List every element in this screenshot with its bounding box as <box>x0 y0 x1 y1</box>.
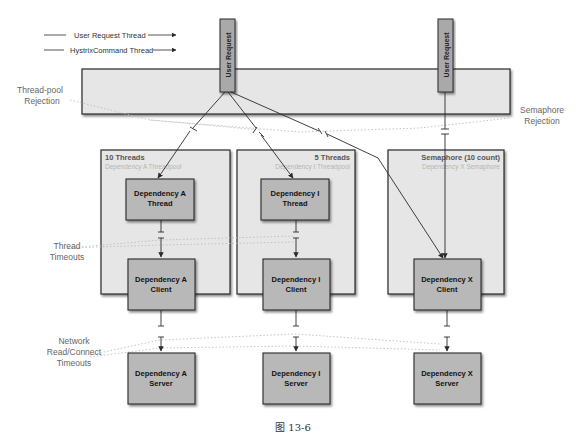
svg-text:Thread: Thread <box>54 241 81 251</box>
network-timeouts-label: Network Read/Connect Timeouts <box>47 336 102 368</box>
dependency-i-thread-box: Dependency I Thread <box>261 179 329 220</box>
svg-text:Semaphore: Semaphore <box>520 105 564 115</box>
dependency-i-client-box: Dependency I Client <box>263 259 330 310</box>
svg-text:Dependency A: Dependency A <box>135 369 187 378</box>
thread-pool-rejection-label: Thread-pool Rejection <box>17 85 63 106</box>
dependency-a-client-box: Dependency A Client <box>128 259 195 310</box>
hystrix-isolation-diagram: User Request Thread HystrixCommand Threa… <box>0 0 585 447</box>
svg-text:Dependency I: Dependency I <box>272 369 321 378</box>
thread-timeouts-label: Thread Timeouts <box>50 241 85 262</box>
legend-label: HystrixCommand Thread <box>70 46 153 55</box>
svg-text:Dependency A: Dependency A <box>135 275 187 284</box>
group-subtitle-x: Dependency X Semaphore <box>422 163 500 171</box>
svg-text:Thread: Thread <box>282 199 307 208</box>
group-subtitle-a: Dependency A Threadpool <box>105 163 182 171</box>
svg-text:Server: Server <box>435 379 458 388</box>
svg-text:Dependency I: Dependency I <box>272 275 321 284</box>
legend-hystrixcommand-thread: HystrixCommand Thread <box>44 46 176 55</box>
group-title-a: 10 Threads <box>105 153 145 162</box>
svg-text:Server: Server <box>149 379 172 388</box>
dependency-a-server-box: Dependency A Server <box>128 353 195 404</box>
svg-text:Rejection: Rejection <box>524 116 560 126</box>
svg-text:Client: Client <box>151 285 172 294</box>
svg-text:Client: Client <box>437 285 458 294</box>
svg-text:Client: Client <box>286 285 307 294</box>
legend: User Request Thread HystrixCommand Threa… <box>44 31 176 55</box>
figure-caption: 图 13-6 <box>275 422 311 433</box>
user-request-pillar-2: User Request <box>438 19 453 92</box>
svg-text:Network: Network <box>58 336 90 346</box>
svg-text:Timeouts: Timeouts <box>50 252 85 262</box>
svg-text:Thread-pool: Thread-pool <box>17 85 63 95</box>
svg-text:Dependency X: Dependency X <box>421 275 473 284</box>
legend-label: User Request Thread <box>74 31 146 40</box>
user-request-pillar-1: User Request <box>220 19 235 92</box>
dependency-a-thread-box: Dependency A Thread <box>126 179 194 220</box>
svg-text:Server: Server <box>284 379 307 388</box>
svg-text:Read/Connect: Read/Connect <box>47 347 102 357</box>
user-request-label: User Request <box>225 32 233 78</box>
dependency-x-server-box: Dependency X Server <box>414 353 481 404</box>
user-request-label: User Request <box>443 32 451 78</box>
semaphore-rejection-label: Semaphore Rejection <box>520 105 564 126</box>
dependency-i-server-box: Dependency I Server <box>263 353 330 404</box>
svg-text:Thread: Thread <box>147 199 172 208</box>
legend-user-request-thread: User Request Thread <box>44 31 176 40</box>
svg-text:Dependency A: Dependency A <box>134 189 186 198</box>
svg-text:Rejection: Rejection <box>24 96 60 106</box>
svg-text:Timeouts: Timeouts <box>57 358 92 368</box>
svg-text:Dependency I: Dependency I <box>271 189 320 198</box>
dependency-x-client-box: Dependency X Client <box>414 259 481 310</box>
svg-text:Dependency X: Dependency X <box>421 369 473 378</box>
group-title-x: Semaphore (10 count) <box>421 153 500 162</box>
group-title-i: 5 Threads <box>315 153 350 162</box>
